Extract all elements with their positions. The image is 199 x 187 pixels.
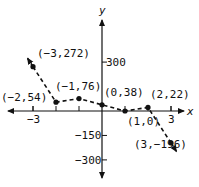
y-tick-label: −150 xyxy=(75,129,102,142)
point-label: (−3,272) xyxy=(37,47,90,60)
y-axis-label: y xyxy=(98,4,106,17)
y-tick-label: 300 xyxy=(106,56,126,69)
data-point xyxy=(30,64,35,69)
x-tick-label: −3 xyxy=(27,113,40,126)
data-point xyxy=(53,100,58,105)
data-point xyxy=(76,96,81,101)
data-point xyxy=(99,102,104,107)
point-label: (−1,76) xyxy=(55,80,101,93)
x-tick-label: 3 xyxy=(168,113,175,126)
point-label: (3,−196) xyxy=(134,138,187,151)
x-axis-label: x xyxy=(186,105,194,118)
point-label: (0,38) xyxy=(104,86,144,99)
point-label: (2,22) xyxy=(150,88,190,101)
data-point xyxy=(122,108,127,113)
data-point xyxy=(145,105,150,110)
point-label: (1,0) xyxy=(127,115,160,128)
point-label: (−2,54) xyxy=(1,91,47,104)
y-tick-label: −300 xyxy=(75,154,102,167)
chart-plot: xy−33300−150−300 (−3,272)(−2,54)(−1,76)(… xyxy=(0,0,199,187)
